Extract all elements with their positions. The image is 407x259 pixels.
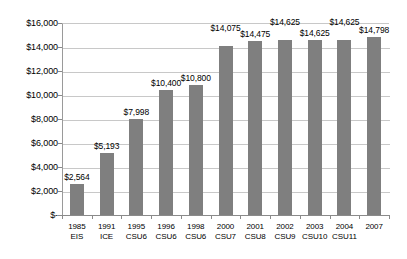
x-tick-mark [240,215,241,219]
bar [100,153,114,215]
x-tick-label-year: 2007 [350,222,398,232]
y-tick-mark [58,143,62,144]
y-tick-label: $6,000 [0,139,58,148]
bar [278,40,292,216]
x-tick-mark [270,215,271,219]
bar-value-label: $14,625 [289,29,341,38]
x-tick-mark [300,215,301,219]
x-tick-mark [62,215,63,219]
bar [70,184,84,215]
y-tick-mark [58,95,62,96]
y-tick-label: $16,000 [0,19,58,28]
y-tick-label: $10,000 [0,91,58,100]
y-tick-mark [58,23,62,24]
y-tick-mark [58,167,62,168]
bar-chart: $16,000$14,000$12,000$10,000$8,000$6,000… [0,0,407,259]
x-axis-line [62,215,389,216]
y-axis: $16,000$14,000$12,000$10,000$8,000$6,000… [0,0,58,259]
bar [189,85,203,215]
bar [129,119,143,215]
x-tick-mark [121,215,122,219]
x-tick-mark [359,215,360,219]
x-axis: 1985EIS1991ICE1995CSU61996CSU61998CSU620… [62,222,389,252]
x-tick-mark [92,215,93,219]
bar [367,37,381,215]
y-tick-mark [58,119,62,120]
bar [337,40,351,216]
bar-value-label: $14,625 [259,18,311,27]
x-tick-label-code: CSU11 [320,232,368,242]
y-tick-label: $- [0,211,58,220]
y-tick-label: $2,000 [0,187,58,196]
bar [308,40,322,216]
bar-value-label: $5,193 [81,142,133,151]
x-tick-mark [330,215,331,219]
x-tick-label: 2007 [350,222,398,232]
bar [219,46,233,215]
bar-value-label: $14,475 [229,30,281,39]
y-tick-label: $14,000 [0,43,58,52]
x-tick-mark [389,215,390,219]
y-tick-mark [58,191,62,192]
y-tick-label: $12,000 [0,67,58,76]
bar [248,41,262,215]
y-tick-label: $4,000 [0,163,58,172]
x-tick-mark [211,215,212,219]
bars-layer [62,23,389,215]
bar-value-label: $7,998 [110,108,162,117]
y-tick-mark [58,47,62,48]
x-tick-mark [151,215,152,219]
bar-value-label: $2,564 [51,173,103,182]
bar-value-label: $14,798 [348,26,400,35]
y-tick-label: $8,000 [0,115,58,124]
bar-value-label: $10,800 [170,74,222,83]
x-tick-mark [181,215,182,219]
y-tick-mark [58,71,62,72]
